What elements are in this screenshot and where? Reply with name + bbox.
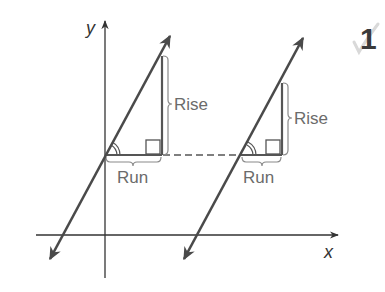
- rise-brace-2: [283, 83, 292, 155]
- rise-brace-1: [163, 56, 172, 155]
- line-2: [184, 38, 303, 259]
- slope-triangle-2: Rise Run: [241, 83, 328, 187]
- rise-label-2: Rise: [294, 109, 328, 128]
- slope-triangle-1: Rise Run: [105, 56, 208, 187]
- corner-mark: 1: [354, 22, 378, 55]
- x-axis-label: x: [323, 242, 334, 262]
- run-label-2: Run: [243, 168, 274, 187]
- right-angle-mark-1: [146, 140, 160, 154]
- y-axis-label: y: [84, 18, 96, 38]
- run-brace-1: [106, 157, 161, 166]
- rise-label-1: Rise: [174, 95, 208, 114]
- line-1: [50, 36, 170, 259]
- angle-arc-2b: [247, 145, 253, 155]
- angle-arc-2: [248, 142, 256, 155]
- right-angle-mark-2: [266, 140, 280, 154]
- slope-diagram: y x Rise Run Rise Run 1: [0, 0, 385, 292]
- corner-number: 1: [360, 22, 377, 55]
- run-brace-2: [242, 157, 281, 166]
- run-label-1: Run: [117, 168, 148, 187]
